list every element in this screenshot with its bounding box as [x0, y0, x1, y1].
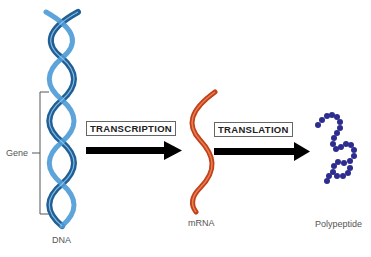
dna-helix-icon: [46, 12, 78, 226]
mrna-label: mRNA: [188, 218, 215, 228]
translation-label: TRANSLATION: [214, 122, 293, 137]
dna-label: DNA: [52, 235, 71, 245]
gene-bracket: [32, 92, 49, 214]
translation-arrow-icon: [214, 142, 310, 161]
polypeptide-chain-icon: [315, 112, 357, 184]
transcription-label: TRANSCRIPTION: [86, 121, 176, 136]
polypeptide-label: Polypeptide: [315, 219, 362, 229]
mrna-strand-icon: [192, 92, 215, 212]
transcription-arrow-icon: [86, 141, 182, 160]
gene-label: Gene: [6, 148, 28, 158]
